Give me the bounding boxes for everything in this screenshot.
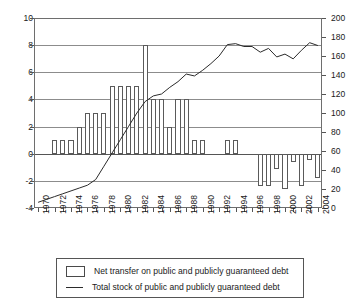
total-stock-line [38, 43, 318, 203]
x-axis-tick [55, 208, 56, 212]
right-axis-tick [322, 94, 326, 95]
right-axis-tick [322, 132, 326, 133]
left-axis-tick [30, 208, 34, 209]
x-axis-tick [236, 208, 237, 212]
right-axis-tick [322, 75, 326, 76]
x-axis-tick [186, 208, 187, 212]
legend-item-line: Total stock of public and publicly guara… [66, 280, 280, 294]
right-axis-tick [322, 56, 326, 57]
right-axis-tick-label: 80 [331, 128, 357, 137]
x-axis-tick [252, 208, 253, 212]
x-axis-tick [71, 208, 72, 212]
right-axis-tick-label: 160 [331, 52, 357, 61]
legend-label-line: Total stock of public and publicly guara… [92, 282, 280, 292]
right-axis-tick [322, 113, 326, 114]
x-axis-tick [170, 208, 171, 212]
right-axis-tick [322, 37, 326, 38]
x-axis-tick [87, 208, 88, 212]
x-axis-tick [318, 208, 319, 212]
x-axis-tick [137, 208, 138, 212]
right-axis-tick-label: 120 [331, 90, 357, 99]
right-axis-tick [322, 18, 326, 19]
x-axis-tick [301, 208, 302, 212]
right-axis-tick-label: 180 [331, 33, 357, 42]
x-axis-tick [120, 208, 121, 212]
line-series [34, 18, 322, 208]
right-axis-tick [322, 189, 326, 190]
x-axis-tick [269, 208, 270, 212]
right-axis-tick [322, 170, 326, 171]
right-axis-tick-label: 140 [331, 71, 357, 80]
x-axis-tick [285, 208, 286, 212]
right-axis-tick-label: 60 [331, 147, 357, 156]
x-axis-year-label: 2004 [322, 195, 331, 214]
legend-label-bar: Net transfer on public and publicly guar… [94, 266, 288, 276]
chart-screenshot: 1086420-2-4 200180160140120100806040200 … [0, 0, 360, 307]
right-axis-tick-label: 20 [331, 185, 357, 194]
x-axis-tick [153, 208, 154, 212]
open-rectangle-icon [66, 266, 85, 277]
right-axis-tick-label: 40 [331, 166, 357, 175]
legend-item-bar: Net transfer on public and publicly guar… [66, 264, 288, 278]
x-axis-tick [104, 208, 105, 212]
right-axis-tick-label: 100 [331, 109, 357, 118]
x-axis-tick [38, 208, 39, 212]
right-axis-tick [322, 151, 326, 152]
solid-line-icon [66, 283, 83, 292]
right-axis-tick-label: 200 [331, 14, 357, 23]
x-axis-tick [203, 208, 204, 212]
right-axis-tick-label: 0 [331, 204, 357, 213]
x-axis-tick [219, 208, 220, 212]
legend: Net transfer on public and publicly guar… [56, 258, 304, 298]
